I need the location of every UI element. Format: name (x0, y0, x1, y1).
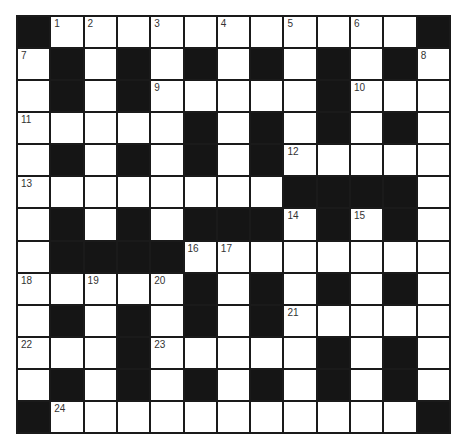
crossword-cell[interactable] (118, 17, 149, 47)
crossword-cell[interactable] (418, 81, 449, 111)
crossword-cell[interactable]: 4 (218, 17, 249, 47)
crossword-cell[interactable] (384, 306, 415, 336)
crossword-cell[interactable] (51, 338, 82, 368)
crossword-cell[interactable]: 5 (284, 17, 315, 47)
crossword-cell[interactable] (18, 81, 49, 111)
crossword-cell[interactable]: 7 (18, 49, 49, 79)
crossword-cell[interactable] (384, 242, 415, 272)
crossword-cell[interactable]: 20 (151, 274, 182, 304)
crossword-cell[interactable] (85, 145, 116, 175)
crossword-cell[interactable] (418, 209, 449, 239)
crossword-cell[interactable]: 1 (51, 17, 82, 47)
crossword-cell[interactable] (351, 113, 382, 143)
crossword-cell[interactable]: 15 (351, 209, 382, 239)
crossword-cell[interactable] (418, 338, 449, 368)
crossword-cell[interactable] (85, 113, 116, 143)
crossword-cell[interactable] (251, 338, 282, 368)
crossword-cell[interactable] (218, 338, 249, 368)
crossword-cell[interactable] (318, 402, 349, 432)
crossword-cell[interactable] (284, 81, 315, 111)
crossword-cell[interactable] (151, 209, 182, 239)
crossword-cell[interactable]: 10 (351, 81, 382, 111)
crossword-cell[interactable] (85, 370, 116, 400)
crossword-cell[interactable] (85, 49, 116, 79)
crossword-cell[interactable] (251, 242, 282, 272)
crossword-cell[interactable] (318, 17, 349, 47)
crossword-cell[interactable] (351, 402, 382, 432)
crossword-cell[interactable] (218, 49, 249, 79)
crossword-cell[interactable] (185, 177, 216, 207)
crossword-cell[interactable] (51, 274, 82, 304)
crossword-cell[interactable] (251, 17, 282, 47)
crossword-cell[interactable] (85, 81, 116, 111)
crossword-cell[interactable] (251, 177, 282, 207)
crossword-cell[interactable] (151, 145, 182, 175)
crossword-cell[interactable] (85, 209, 116, 239)
crossword-cell[interactable] (85, 402, 116, 432)
crossword-cell[interactable] (251, 402, 282, 432)
crossword-cell[interactable] (351, 145, 382, 175)
crossword-cell[interactable] (118, 274, 149, 304)
crossword-cell[interactable] (418, 242, 449, 272)
crossword-cell[interactable] (218, 81, 249, 111)
crossword-cell[interactable] (318, 306, 349, 336)
crossword-cell[interactable] (18, 370, 49, 400)
crossword-cell[interactable] (185, 338, 216, 368)
crossword-cell[interactable] (351, 306, 382, 336)
crossword-cell[interactable] (351, 370, 382, 400)
crossword-cell[interactable] (351, 242, 382, 272)
crossword-cell[interactable] (85, 338, 116, 368)
crossword-cell[interactable]: 21 (284, 306, 315, 336)
crossword-cell[interactable] (284, 49, 315, 79)
crossword-cell[interactable] (185, 81, 216, 111)
crossword-cell[interactable] (118, 402, 149, 432)
crossword-cell[interactable] (384, 81, 415, 111)
crossword-cell[interactable] (418, 145, 449, 175)
crossword-cell[interactable] (218, 402, 249, 432)
crossword-cell[interactable]: 18 (18, 274, 49, 304)
crossword-cell[interactable] (351, 274, 382, 304)
crossword-cell[interactable]: 13 (18, 177, 49, 207)
crossword-cell[interactable] (218, 370, 249, 400)
crossword-cell[interactable] (85, 306, 116, 336)
crossword-cell[interactable] (151, 113, 182, 143)
crossword-cell[interactable] (218, 274, 249, 304)
crossword-cell[interactable] (418, 274, 449, 304)
crossword-cell[interactable]: 19 (85, 274, 116, 304)
crossword-cell[interactable] (218, 177, 249, 207)
crossword-cell[interactable]: 6 (351, 17, 382, 47)
crossword-cell[interactable] (151, 402, 182, 432)
crossword-cell[interactable] (218, 145, 249, 175)
crossword-cell[interactable]: 24 (51, 402, 82, 432)
crossword-cell[interactable] (118, 177, 149, 207)
crossword-cell[interactable] (284, 402, 315, 432)
crossword-cell[interactable] (51, 113, 82, 143)
crossword-cell[interactable] (218, 113, 249, 143)
crossword-cell[interactable]: 16 (185, 242, 216, 272)
crossword-cell[interactable]: 3 (151, 17, 182, 47)
crossword-cell[interactable] (284, 242, 315, 272)
crossword-cell[interactable] (185, 402, 216, 432)
crossword-cell[interactable]: 8 (418, 49, 449, 79)
crossword-cell[interactable]: 12 (284, 145, 315, 175)
crossword-cell[interactable] (51, 177, 82, 207)
crossword-cell[interactable] (318, 242, 349, 272)
crossword-cell[interactable] (18, 209, 49, 239)
crossword-cell[interactable] (284, 338, 315, 368)
crossword-cell[interactable] (118, 113, 149, 143)
crossword-cell[interactable] (318, 145, 349, 175)
crossword-cell[interactable] (18, 145, 49, 175)
crossword-cell[interactable] (284, 370, 315, 400)
crossword-cell[interactable] (85, 177, 116, 207)
crossword-cell[interactable]: 2 (85, 17, 116, 47)
crossword-cell[interactable]: 9 (151, 81, 182, 111)
crossword-cell[interactable] (418, 177, 449, 207)
crossword-cell[interactable]: 22 (18, 338, 49, 368)
crossword-cell[interactable] (185, 17, 216, 47)
crossword-cell[interactable] (384, 402, 415, 432)
crossword-cell[interactable] (418, 113, 449, 143)
crossword-cell[interactable]: 14 (284, 209, 315, 239)
crossword-cell[interactable] (418, 370, 449, 400)
crossword-cell[interactable] (351, 49, 382, 79)
crossword-cell[interactable]: 17 (218, 242, 249, 272)
